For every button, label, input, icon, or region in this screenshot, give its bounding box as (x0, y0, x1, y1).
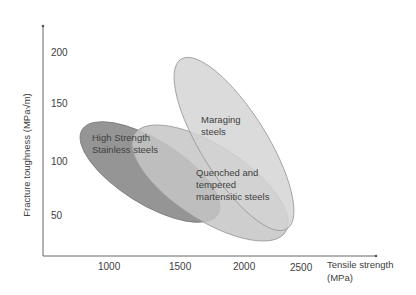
y-axis-label: Fracture toughness (MPa√m) (21, 93, 32, 216)
y-tick-150: 150 (51, 98, 68, 109)
y-tick-50: 50 (51, 210, 63, 221)
x-tick-1500: 1500 (169, 261, 192, 272)
region-label-high-strength: High Strength Stainless steels (92, 132, 158, 155)
chart-canvas: High Strength Stainless steels Quenched … (0, 0, 416, 295)
x-axis-label: Tensile strength (MPa) (327, 259, 396, 283)
x-tick-2500: 2500 (290, 262, 313, 273)
y-tick-200: 200 (51, 47, 68, 58)
y-tick-100: 100 (51, 156, 68, 167)
x-tick-2000: 2000 (233, 261, 256, 272)
x-tick-1000: 1000 (98, 261, 121, 272)
